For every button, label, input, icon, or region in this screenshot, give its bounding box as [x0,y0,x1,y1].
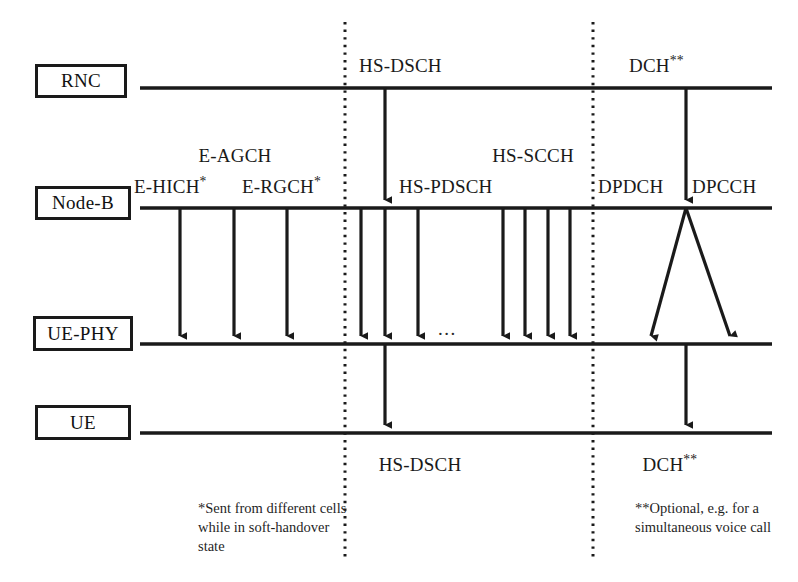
label-hs-dsch-top-text: HS-DSCH [359,55,442,76]
arrows-uephy-to-ue [385,344,686,425]
label-hs-dsch-bottom-text: HS-DSCH [379,454,462,475]
label-hs-dsch-top: HS-DSCH [359,55,442,77]
node-label-ue: UE [70,412,96,434]
label-dch-bottom-marker: ** [683,452,697,467]
label-dpcch-text: DPCCH [692,176,756,197]
node-box-ue: UE [35,405,131,440]
footnote-double-star-text: **Optional, e.g. for a simultaneous voic… [635,500,771,535]
label-dch-top-marker: ** [670,53,684,68]
channel-mapping-diagram: RNC Node-B UE-PHY UE HS-DSCH DCH** E-AGC… [0,0,798,582]
node-label-nodeb: Node-B [52,192,114,214]
label-e-hich-marker: * [200,174,207,189]
label-e-agch-text: E-AGCH [199,145,272,166]
label-hs-dsch-bottom: HS-DSCH [379,454,462,476]
label-dch-bottom-text: DCH [643,454,684,475]
footnote-single-star-text: *Sent from different cells while in soft… [198,500,346,554]
label-e-rgch: E-RGCH* [242,176,321,198]
node-box-rnc: RNC [35,64,127,98]
label-dch-top-text: DCH [629,55,670,76]
section-divider-lines [345,22,593,560]
label-hs-pdsch-text: HS-PDSCH [399,176,492,197]
label-e-rgch-marker: * [314,174,321,189]
label-hs-scch-text: HS-SCCH [492,145,574,166]
node-box-nodeb: Node-B [35,186,131,220]
arrow-dpcch [686,208,730,336]
node-label-uephy: UE-PHY [47,323,118,345]
label-ellipsis: ... [438,318,457,340]
footnote-double-star: **Optional, e.g. for a simultaneous voic… [635,499,787,537]
label-e-agch: E-AGCH [199,145,272,167]
label-dch-top: DCH** [629,55,684,77]
label-e-rgch-text: E-RGCH [242,176,314,197]
footnote-single-star: *Sent from different cells while in soft… [198,499,348,556]
label-dpdch-text: DPDCH [598,176,663,197]
label-hs-pdsch: HS-PDSCH [399,176,492,198]
label-ellipsis-text: ... [438,318,457,339]
label-dch-bottom: DCH** [643,454,698,476]
label-dpdch: DPDCH [598,176,663,198]
label-e-hich: E-HICH* [134,176,207,198]
label-hs-scch: HS-SCCH [492,145,574,167]
arrow-dpdch [651,208,686,336]
node-label-rnc: RNC [61,70,101,92]
label-e-hich-text: E-HICH [134,176,200,197]
label-dpcch: DPCCH [692,176,756,198]
arrows-nodeb-to-uephy [180,208,730,336]
node-box-uephy: UE-PHY [33,316,133,351]
